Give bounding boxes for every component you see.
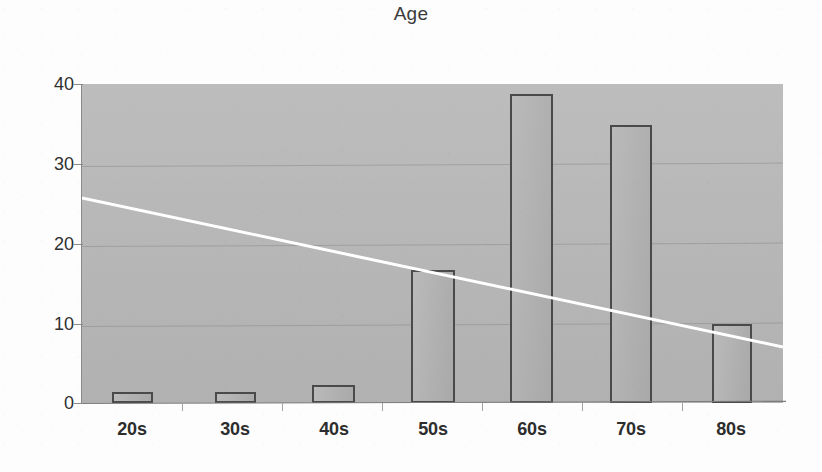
y-tick-mark-30: [74, 164, 83, 165]
bar-fill-30s: [217, 394, 254, 401]
bar-40s[interactable]: [312, 385, 355, 403]
y-tick-mark-0: [74, 403, 83, 404]
chart-title: Age: [0, 3, 822, 25]
bar-30s[interactable]: [215, 392, 256, 403]
bar-20s[interactable]: [112, 392, 153, 403]
y-tick-mark-10: [74, 324, 83, 325]
bar-fill-40s: [314, 387, 353, 401]
x-tick-label-50s: 50s: [418, 419, 447, 440]
x-tick-label-40s: 40s: [319, 419, 348, 440]
x-tick-label-30s: 30s: [220, 419, 249, 440]
bar-80s[interactable]: [712, 324, 752, 403]
gridline-30: [82, 163, 783, 167]
y-tick-label-30: 30: [30, 154, 74, 175]
plot-area: [82, 84, 783, 403]
x-tick-mark-3: [382, 403, 383, 411]
x-tick-mark-2: [282, 403, 283, 411]
x-tick-label-80s: 80s: [716, 419, 745, 440]
y-tick-label-10: 10: [30, 314, 74, 335]
bar-50s[interactable]: [411, 270, 455, 403]
y-tick-label-0: 0: [30, 393, 74, 414]
x-tick-label-70s: 70s: [616, 419, 645, 440]
chart-figure: Age 40 30 20 10 0 20s 30: [0, 0, 822, 472]
x-tick-mark-4: [482, 403, 483, 411]
bar-fill-50s: [413, 272, 453, 401]
y-axis-labels: 40 30 20 10 0: [0, 0, 74, 472]
gridline-20: [82, 243, 783, 247]
y-tick-mark-40: [74, 84, 83, 85]
y-tick-label-20: 20: [30, 234, 74, 255]
bar-fill-20s: [114, 394, 151, 401]
x-tick-mark-6: [682, 403, 683, 411]
y-tick-label-40: 40: [30, 74, 74, 95]
x-tick-label-60s: 60s: [517, 419, 546, 440]
bar-fill-80s: [714, 326, 750, 401]
bar-fill-60s: [512, 96, 551, 401]
x-tick-label-20s: 20s: [117, 419, 146, 440]
bar-70s[interactable]: [610, 125, 652, 403]
bar-fill-70s: [612, 127, 650, 401]
x-tick-mark-1: [182, 403, 183, 411]
y-tick-mark-20: [74, 244, 83, 245]
bar-60s[interactable]: [510, 94, 553, 403]
x-tick-mark-5: [582, 403, 583, 411]
